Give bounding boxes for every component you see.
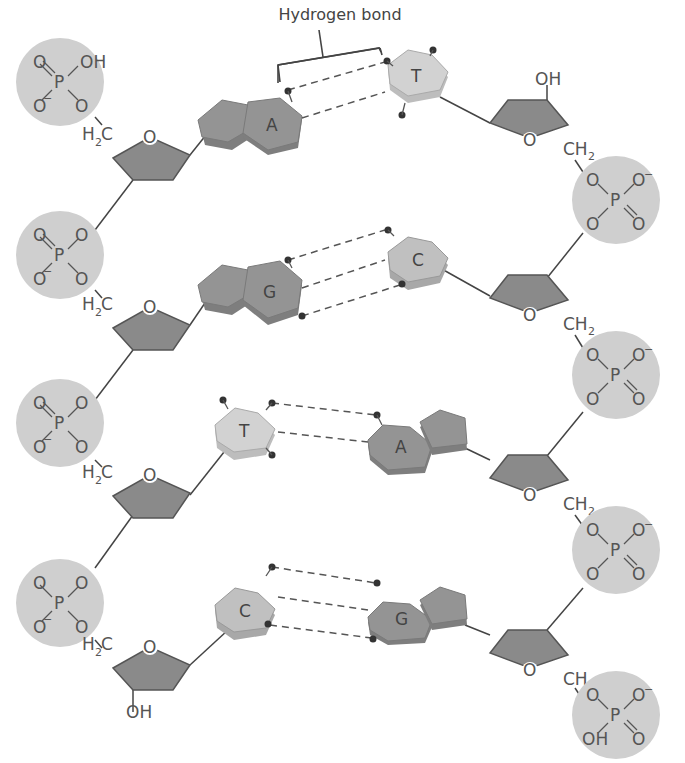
purine-base-g: G bbox=[198, 261, 302, 325]
deoxyribose-sugar: O CH 2 bbox=[490, 630, 595, 693]
svg-text:H: H bbox=[82, 294, 95, 314]
base-pair-4: C G bbox=[215, 564, 467, 646]
pyrimidine-base-c: C bbox=[388, 237, 448, 290]
pyrimidine-base-t: T bbox=[388, 50, 448, 103]
svg-text:O: O bbox=[586, 389, 599, 409]
svg-text:2: 2 bbox=[588, 325, 595, 338]
svg-text:O: O bbox=[586, 520, 599, 540]
svg-text:C: C bbox=[412, 250, 424, 270]
svg-text:O: O bbox=[33, 393, 46, 413]
svg-text:P: P bbox=[54, 245, 64, 265]
phosphate-group: O OH P O − O bbox=[16, 38, 106, 126]
purine-base-g: G bbox=[368, 587, 467, 645]
svg-text:O: O bbox=[586, 685, 599, 705]
svg-text:O: O bbox=[33, 573, 46, 593]
svg-text:O: O bbox=[632, 214, 645, 234]
svg-text:C: C bbox=[239, 601, 251, 621]
svg-text:O: O bbox=[75, 269, 88, 289]
svg-text:G: G bbox=[263, 282, 276, 302]
phosphate-group: O O P O − O bbox=[16, 211, 104, 299]
svg-text:A: A bbox=[266, 115, 278, 135]
svg-text:C: C bbox=[101, 124, 113, 144]
deoxyribose-sugar: O CH 2 bbox=[490, 275, 595, 338]
svg-text:O: O bbox=[523, 305, 536, 325]
deoxyribose-sugar: O H 2 C bbox=[82, 462, 190, 518]
svg-text:O: O bbox=[143, 297, 156, 317]
bracket bbox=[278, 48, 381, 83]
hydrogen-bonds bbox=[272, 403, 376, 442]
base-pair-1: A T bbox=[198, 47, 448, 156]
svg-text:P: P bbox=[610, 365, 620, 385]
svg-text:T: T bbox=[238, 421, 250, 441]
svg-text:O: O bbox=[75, 437, 88, 457]
svg-text:P: P bbox=[54, 413, 64, 433]
svg-text:T: T bbox=[410, 66, 422, 86]
svg-text:−: − bbox=[644, 518, 653, 531]
svg-text:O: O bbox=[523, 485, 536, 505]
svg-text:P: P bbox=[610, 705, 620, 725]
svg-text:CH: CH bbox=[563, 494, 588, 514]
svg-text:O: O bbox=[75, 96, 88, 116]
svg-text:C: C bbox=[101, 294, 113, 314]
svg-text:−: − bbox=[644, 343, 653, 356]
phosphate-group: O O − P O O bbox=[572, 331, 660, 419]
svg-text:−: − bbox=[43, 92, 52, 105]
svg-text:P: P bbox=[610, 190, 620, 210]
svg-text:−: − bbox=[43, 265, 52, 278]
svg-text:O: O bbox=[33, 52, 46, 72]
deoxyribose-sugar: O H 2 C bbox=[82, 634, 190, 690]
svg-text:O: O bbox=[586, 170, 599, 190]
base-pair-2: G C bbox=[198, 227, 448, 326]
purine-base-a: A bbox=[198, 98, 302, 155]
dna-structure-diagram: Hydrogen bond bbox=[0, 0, 685, 763]
deoxyribose-sugar: O CH 2 bbox=[490, 455, 595, 518]
phosphate-group: O O − P O O bbox=[572, 156, 660, 244]
svg-text:O: O bbox=[143, 637, 156, 657]
svg-text:O: O bbox=[523, 660, 536, 680]
svg-text:CH: CH bbox=[563, 139, 588, 159]
svg-text:P: P bbox=[54, 593, 64, 613]
svg-text:−: − bbox=[644, 683, 653, 696]
svg-text:O: O bbox=[143, 127, 156, 147]
left-backbone bbox=[95, 117, 228, 712]
svg-text:O: O bbox=[586, 345, 599, 365]
deoxyribose-sugar: O H 2 C bbox=[82, 124, 190, 180]
hydrogen-bonds bbox=[288, 230, 400, 316]
deoxyribose-sugar: O H 2 C bbox=[82, 294, 190, 350]
svg-text:P: P bbox=[54, 72, 64, 92]
svg-text:OH: OH bbox=[582, 729, 608, 749]
hydrogen-bond-callout: Hydrogen bond bbox=[278, 5, 402, 83]
svg-text:2: 2 bbox=[588, 150, 595, 163]
svg-text:O: O bbox=[632, 729, 645, 749]
hydrogen-bond-label: Hydrogen bond bbox=[278, 5, 401, 24]
svg-text:−: − bbox=[43, 433, 52, 446]
left-terminal-oh: OH bbox=[126, 702, 152, 722]
svg-text:H: H bbox=[82, 124, 95, 144]
svg-text:O: O bbox=[632, 389, 645, 409]
svg-text:C: C bbox=[101, 634, 113, 654]
base-pair-3: T A bbox=[215, 397, 467, 476]
svg-text:C: C bbox=[101, 462, 113, 482]
svg-text:O: O bbox=[523, 130, 536, 150]
phosphate-group: O O − P O O bbox=[572, 506, 660, 594]
svg-text:−: − bbox=[43, 613, 52, 626]
svg-text:O: O bbox=[586, 564, 599, 584]
svg-text:OH: OH bbox=[80, 52, 106, 72]
svg-text:A: A bbox=[395, 437, 407, 457]
hydrogen-bonds bbox=[288, 62, 385, 118]
svg-text:CH: CH bbox=[563, 314, 588, 334]
svg-text:O: O bbox=[33, 225, 46, 245]
svg-text:P: P bbox=[610, 540, 620, 560]
phosphate-group: O O − P OH O bbox=[572, 671, 660, 759]
svg-text:O: O bbox=[586, 214, 599, 234]
svg-text:O: O bbox=[143, 465, 156, 485]
svg-text:H: H bbox=[82, 462, 95, 482]
svg-text:O: O bbox=[75, 573, 88, 593]
svg-text:O: O bbox=[75, 225, 88, 245]
right-terminal-oh: OH bbox=[535, 69, 561, 89]
hydrogen-bonds bbox=[270, 567, 376, 638]
pyrimidine-base-c: C bbox=[215, 588, 275, 640]
svg-text:O: O bbox=[632, 564, 645, 584]
purine-base-a: A bbox=[368, 410, 467, 475]
svg-text:G: G bbox=[395, 609, 408, 629]
